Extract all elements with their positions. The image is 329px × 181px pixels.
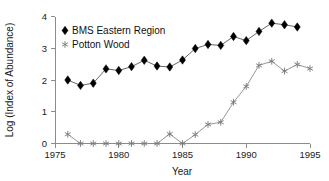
data-point-marker [192,131,198,138]
legend-diamond-icon [62,26,68,34]
data-point-marker [307,65,313,72]
x-tick-label-1985: 1985 [172,149,193,160]
data-point-marker [77,81,83,89]
y-tick-label-3: 3 [42,43,47,54]
legend-label-1: BMS Eastern Region [72,25,165,36]
x-tick-label-1990: 1990 [236,149,257,160]
data-point-marker [167,131,173,138]
x-tick-label-1995: 1995 [299,149,320,160]
series-line-2 [68,61,310,143]
data-point-marker [256,62,262,69]
data-point-marker [230,32,236,40]
data-point-marker [282,68,288,75]
data-point-marker [218,41,224,49]
x-axis-title: Year [172,166,193,177]
chart-container: 0 1 2 3 4 1975 1980 1985 1990 1995 Year … [0,0,329,181]
data-point-marker [179,56,185,64]
data-point-marker [65,76,71,84]
data-point-marker [281,21,287,29]
data-point-marker [269,58,275,65]
legend-star-icon [62,41,68,48]
x-tick-label-1980: 1980 [108,149,129,160]
y-axis-ticks [51,17,55,144]
y-tick-label-4: 4 [42,11,47,22]
data-point-marker [269,19,275,27]
y-tick-label-2: 2 [42,75,47,86]
data-point-marker [167,63,173,71]
data-point-marker [294,61,300,68]
data-point-marker [243,36,249,44]
data-point-marker [65,131,71,138]
chart-plot-area: 0 1 2 3 4 1975 1980 1985 1990 1995 Year … [0,0,329,181]
data-point-marker [294,23,300,31]
data-point-marker [256,27,262,35]
data-point-marker [154,62,160,70]
data-point-marker [116,66,122,74]
x-tick-label-1975: 1975 [44,149,65,160]
data-point-marker [141,56,147,64]
y-axis-title: Log (Index of Abundance) [4,23,15,138]
data-point-marker [128,62,134,70]
data-point-marker [192,44,198,52]
y-tick-label-1: 1 [42,106,47,117]
legend-marker-group [62,26,68,48]
legend-label-2: Potton Wood [72,39,130,50]
y-tick-label-0: 0 [42,138,47,149]
data-point-marker [205,40,211,48]
chart-legend: BMS Eastern Region Potton Wood [62,25,165,50]
